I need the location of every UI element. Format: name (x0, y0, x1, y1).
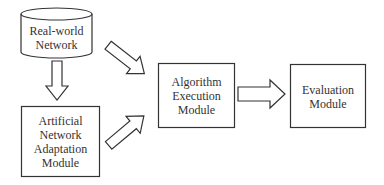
arrow-down-right-icon (101, 37, 151, 83)
label-line: Network (36, 38, 78, 52)
label-line: Execution (172, 89, 221, 103)
label-line: Real-world (30, 24, 84, 38)
label-line: Module (42, 156, 79, 170)
algorithm-execution-label: Algorithm Execution Module (158, 64, 235, 128)
label-line: Adaptation (34, 142, 87, 156)
real-world-network-label: Real-world Network (21, 20, 92, 56)
arrow-down-icon (46, 61, 68, 100)
arrow-right-icon (238, 80, 285, 108)
label-line: Evaluation (302, 83, 354, 97)
label-line: Algorithm (172, 75, 222, 89)
label-line: Module (309, 97, 346, 111)
evaluation-label: Evaluation Module (290, 65, 366, 128)
artificial-network-adaptation-label: Artificial Network Adaptation Module (21, 107, 100, 177)
label-line: Module (178, 103, 215, 117)
label-line: Network (40, 128, 82, 142)
label-line: Artificial (39, 114, 83, 128)
arrow-up-right-icon (102, 107, 151, 153)
